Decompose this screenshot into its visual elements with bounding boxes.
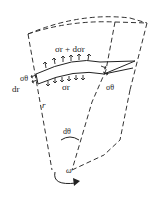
hoop-stress-left-label: σθ (20, 74, 28, 83)
omega-label: ω (66, 166, 72, 175)
thickness-label: dr (12, 84, 20, 94)
inner-stress-label: σr (62, 82, 70, 92)
hoop-stress-right-label: σθ (106, 83, 114, 92)
outer-stress-label: σr + dσr (55, 44, 85, 54)
angle-arc (61, 137, 79, 140)
radius-label: r (42, 100, 46, 110)
dashed-outline (28, 17, 147, 170)
disk-element-diagram: σr + dσr σr σθ σθ dr r dθ ω (0, 0, 158, 200)
angle-label: dθ (63, 127, 71, 136)
element-body (36, 61, 135, 85)
